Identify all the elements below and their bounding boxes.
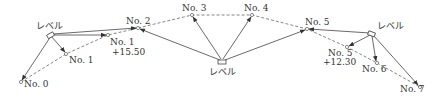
level-3-label: レベル — [377, 21, 404, 31]
point-no0-marker — [19, 80, 22, 83]
point-no2-marker — [136, 26, 139, 29]
point-no5p-offset: +12.30 — [323, 57, 357, 67]
point-no4-label: No. 4 — [244, 3, 269, 13]
level-2-label: レベル — [209, 67, 236, 77]
point-no7-label: No. 7 — [400, 84, 425, 94]
point-no1p-label: No. 1 — [110, 37, 135, 47]
leveling-diagram: レベル レベル レベル No. 0 No. 1 No. 1 +15.50 No.… — [0, 0, 433, 98]
level-1-label: レベル — [36, 21, 63, 31]
sightlines-level-2 — [140, 17, 305, 60]
point-no2-label: No. 2 — [126, 16, 151, 26]
point-no3-label: No. 3 — [182, 3, 207, 13]
point-no5-marker — [305, 27, 308, 30]
point-no6-label: No. 6 — [362, 64, 387, 74]
point-no3-marker — [190, 13, 193, 16]
point-no4-marker — [250, 13, 253, 16]
point-no0-label: No. 0 — [24, 79, 49, 89]
level-instrument-icon — [218, 60, 226, 64]
point-no1-marker — [64, 52, 67, 55]
point-no1p-offset: +15.50 — [112, 47, 146, 57]
level-instrument-icon — [47, 32, 55, 39]
point-no1-label: No. 1 — [69, 55, 94, 65]
point-no5-label: No. 5 — [305, 17, 330, 27]
staff-points — [19, 13, 421, 88]
